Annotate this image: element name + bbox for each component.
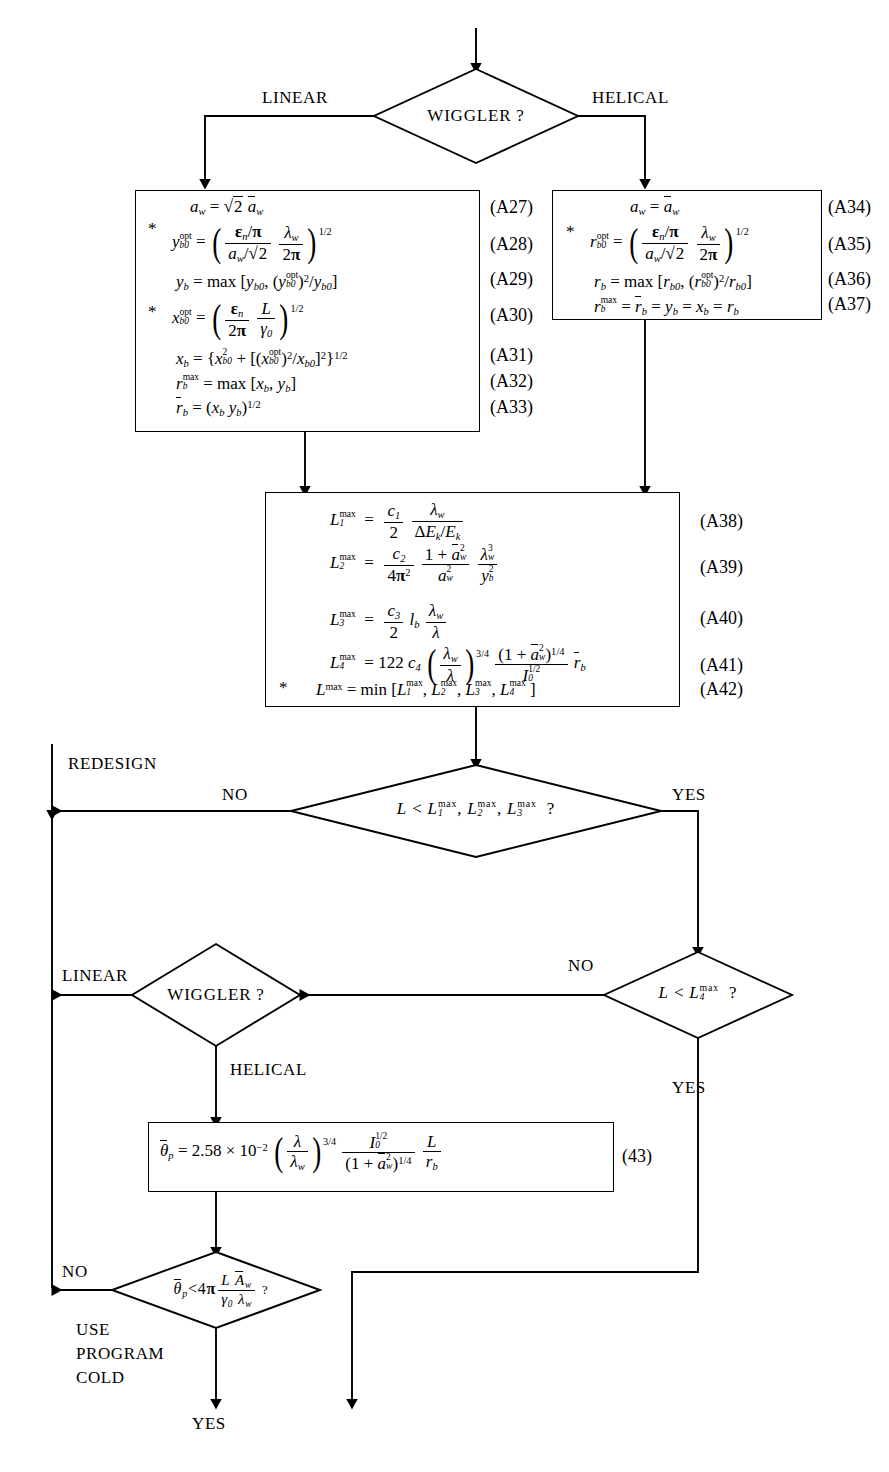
equation-a38: Lmax1 = c12 λwΔEk/Ek — [330, 500, 465, 543]
lmax-star-a42: * — [279, 678, 288, 698]
equation-a36: rb = max [rb0, (roptb0)2/rb0] — [594, 271, 752, 292]
flowchart-page: WIGGLER ? L < Lmax1, Lmax2, Lmax3 ? L < … — [0, 0, 889, 1472]
path-label-helical-top: HELICAL — [592, 88, 669, 108]
path-label-no-l4: NO — [568, 956, 594, 976]
decision-l4-check-label: L < Lmax4 ? — [618, 983, 778, 1003]
equation-a34: aw = aw — [630, 197, 679, 217]
decision-wiggler-top-label: WIGGLER ? — [408, 106, 544, 126]
equation-a39: Lmax2 = c24π2 1 + a2wa2w λ3wy2b — [330, 544, 499, 585]
decision-theta-check-label: θp<4πL Awγ0 λw ? — [128, 1272, 314, 1309]
tag-a37: (A37) — [828, 294, 871, 315]
equation-a40: Lmax3 = c32 lb λwλ — [330, 601, 448, 642]
tag-a32: (A32) — [490, 371, 533, 392]
path-label-no-length-check: NO — [222, 785, 248, 805]
tag-a41: (A41) — [700, 655, 743, 676]
tag-a42: (A42) — [700, 679, 743, 700]
linear-star-a28: * — [148, 219, 157, 239]
path-label-no-theta: NO — [62, 1262, 88, 1282]
equation-a29: yb = max [yb0, (yoptb0)2/yb0] — [176, 271, 337, 292]
equation-a33: rb = (xb yb)1/2 — [176, 398, 261, 418]
tag-a29: (A29) — [490, 269, 533, 290]
equation-a42: Lmax = min [Lmax1, Lmax2, Lmax3, Lmax4 ] — [316, 679, 536, 700]
helical-star-a35: * — [566, 222, 575, 242]
path-label-helical-second: HELICAL — [230, 1060, 307, 1080]
equation-a35: roptb0 = ( εn/πaw/√2 λw2π )1/2 — [590, 222, 749, 265]
tag-a31: (A31) — [490, 345, 533, 366]
tag-a39: (A39) — [700, 557, 743, 578]
equation-a27: aw = √2 aw — [190, 197, 263, 217]
tag-a38: (A38) — [700, 511, 743, 532]
label-use-program-cold-1: USE — [76, 1320, 110, 1340]
label-use-program-cold-3: COLD — [76, 1368, 125, 1388]
path-label-yes-length-check: YES — [672, 785, 706, 805]
tag-a28: (A28) — [490, 234, 533, 255]
equation-a31: xb = {x2b0 + [(xoptb0)2/xb0]2}1/2 — [176, 348, 348, 369]
label-use-program-cold-2: PROGRAM — [76, 1344, 164, 1364]
equation-a28: yoptb0 = ( εn/πaw/√2 λw2π )1/2 — [172, 222, 332, 265]
tag-a30: (A30) — [490, 305, 533, 326]
tag-a40: (A40) — [700, 608, 743, 629]
path-label-yes-bottom: YES — [192, 1414, 226, 1434]
decision-wiggler-second-label: WIGGLER ? — [150, 985, 282, 1005]
path-label-yes-l4: YES — [672, 1078, 706, 1098]
path-label-linear-top: LINEAR — [262, 88, 328, 108]
path-label-linear-second: LINEAR — [62, 966, 128, 986]
tag-43: (43) — [622, 1146, 652, 1167]
equation-43: θp = 2.58 × 10−2 (λλw)3/4 I1/20(1 + a2w)… — [160, 1132, 443, 1173]
tag-a36: (A36) — [828, 269, 871, 290]
tag-a33: (A33) — [490, 397, 533, 418]
tag-a34: (A34) — [828, 197, 871, 218]
tag-a27: (A27) — [490, 197, 533, 218]
equation-a30: xoptb0 = ( εn2π Lγ0 )1/2 — [172, 299, 304, 340]
linear-star-a30: * — [148, 302, 157, 322]
path-label-redesign: REDESIGN — [68, 754, 157, 774]
tag-a35: (A35) — [828, 234, 871, 255]
equation-a32: rmaxb = max [xb, yb] — [176, 373, 296, 394]
equation-a37: rmaxb = rb = yb = xb = rb — [594, 296, 739, 317]
decision-length-check-label: L < Lmax1, Lmax2, Lmax3 ? — [340, 799, 612, 819]
